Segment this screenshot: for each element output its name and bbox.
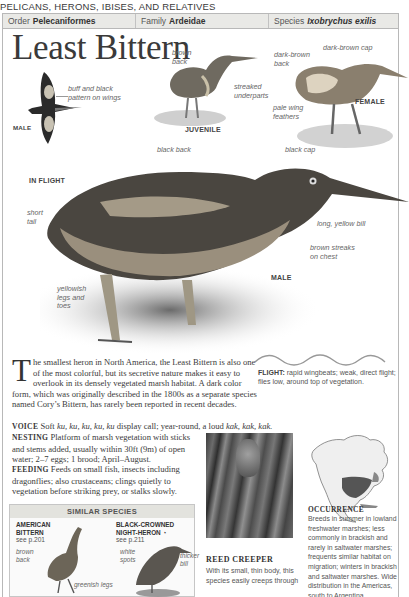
- bittern-in-reeds: [236, 439, 260, 477]
- female-wing-label: pale wing feathers: [273, 104, 303, 121]
- occurrence-text: Breeds in summer in lowland freshwater m…: [308, 514, 400, 597]
- juvenile-underparts-label: streaked underparts: [234, 83, 268, 100]
- order-label: Order: [8, 16, 30, 26]
- male-back-label: black back: [157, 146, 191, 155]
- juvenile-caption: JUVENILE: [185, 126, 221, 133]
- american-bittern-back-label: brown back: [16, 548, 34, 563]
- male-caption: MALE: [271, 274, 292, 281]
- species-label: Species: [274, 16, 304, 26]
- night-heron-illustration: [130, 539, 192, 597]
- family-value: Ardeidae: [169, 16, 205, 26]
- taxonomy-bar: Order Pelecaniformes Family Ardeidae Spe…: [2, 13, 399, 29]
- order-value: Pelecaniformes: [33, 16, 96, 26]
- section-title: PELICANS, HERONS, IBISES, AND RELATIVES: [0, 1, 216, 12]
- voice-text: VOICE Soft ku, ku, ku, ku, ku display ca…: [12, 421, 312, 433]
- male-legs-label: yellowish legs and toes: [57, 285, 86, 311]
- flight-wing-label: buff and black pattern on wings: [68, 85, 121, 102]
- taxonomy-species: Species Ixobrychus exilis: [269, 14, 398, 28]
- voice-label: VOICE: [12, 422, 38, 431]
- leader-line: [56, 96, 68, 97]
- taxonomy-order: Order Pelecaniformes: [3, 14, 136, 28]
- status-icon: ◔: [163, 529, 167, 536]
- female-caption: FEMALE: [355, 98, 385, 105]
- nesting-text: NESTING Platform of marsh vegetation wit…: [12, 432, 204, 465]
- female-back-label: dark-brown back: [274, 51, 310, 68]
- nesting-label: NESTING: [12, 433, 48, 442]
- juvenile-back-label: brown back: [172, 49, 192, 66]
- feeding-text: FEEDING Feeds on small fish, insects inc…: [12, 464, 204, 497]
- family-label: Family: [141, 16, 166, 26]
- description-text: The smallest heron in North America, the…: [12, 357, 257, 410]
- reed-creeper-photo: [206, 433, 293, 538]
- male-tail-label: short tail: [27, 209, 43, 226]
- flight-sex-caption: MALE: [13, 124, 31, 131]
- female-cap-label: dark-brown cap: [323, 44, 373, 53]
- american-bittern-illustration: [38, 525, 100, 595]
- similar-species-heading: SIMILAR SPECIES: [10, 505, 194, 518]
- flight-bird-illustration: [12, 70, 87, 145]
- intro-text: he smallest heron in North America, the …: [12, 357, 257, 409]
- flight-pattern-wave: [255, 352, 395, 366]
- similar-species-box: SIMILAR SPECIES AMERICAN BITTERN see p.2…: [9, 504, 195, 597]
- male-bill-label: long, yellow bill: [317, 220, 365, 229]
- photo-caption: With its small, thin body, this species …: [206, 566, 301, 585]
- species-value: Ixobrychus exilis: [307, 16, 376, 26]
- feeding-label: FEEDING: [12, 465, 49, 474]
- night-heron-name: BLACK-CROWNED NIGHT-HERON ◔: [116, 521, 174, 536]
- taxonomy-family: Family Ardeidae: [136, 14, 269, 28]
- flight-description: FLIGHT: rapid wingbeats; weak, direct fl…: [258, 368, 398, 386]
- photo-title: REED CREEPER: [206, 555, 273, 564]
- male-cap-label: black cap: [285, 146, 315, 155]
- dropcap: T: [12, 359, 31, 383]
- male-chest-label: brown streaks on chest: [310, 244, 355, 261]
- occurrence-title: OCCURRENCE: [308, 505, 364, 514]
